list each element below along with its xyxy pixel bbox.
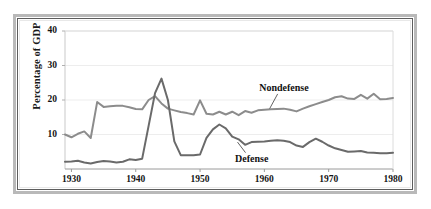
gridlines [65,31,393,135]
series-line-defense [65,79,393,164]
line-chart: Percentage of GDP 10203040 1930194019501… [20,21,410,187]
figure-frame: Percentage of GDP 10203040 1930194019501… [0,0,431,209]
plot-area [20,21,410,187]
annotation-defense: Defense [235,153,268,164]
leader-line-nondefense [270,94,278,109]
annotation-nondefense: Nondefense [259,82,308,93]
data-series [65,79,393,164]
